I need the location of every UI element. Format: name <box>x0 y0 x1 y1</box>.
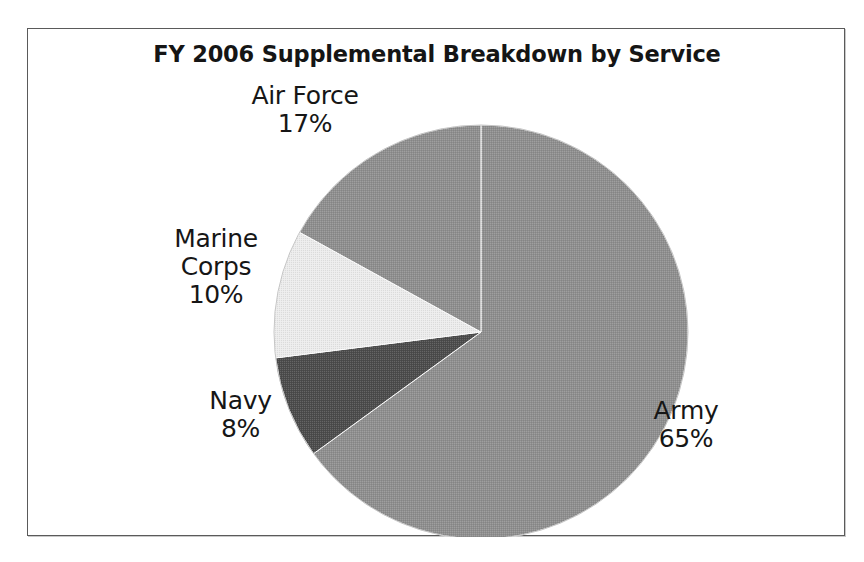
pie-label-marine-corps-name-line2: Corps <box>136 253 296 281</box>
pie-label-navy: Navy 8% <box>173 387 308 443</box>
pie-label-air-force-name: Air Force <box>210 82 400 110</box>
pie-label-air-force-value: 17% <box>210 110 400 138</box>
pie-label-marine-corps-name-line1: Marine <box>136 225 296 253</box>
pie-label-army-name: Army <box>606 397 766 425</box>
pie-label-marine-corps: Marine Corps 10% <box>136 225 296 309</box>
pie-chart-plot-area: Air Force 17% Marine Corps 10% Navy 8% A… <box>28 29 846 537</box>
pie-label-navy-value: 8% <box>173 415 308 443</box>
chart-frame: FY 2006 Supplemental Breakdown by Servic… <box>27 28 845 536</box>
pie-label-army: Army 65% <box>606 397 766 453</box>
pie-label-marine-corps-value: 10% <box>136 281 296 309</box>
pie-label-air-force: Air Force 17% <box>210 82 400 138</box>
pie-label-army-value: 65% <box>606 425 766 453</box>
pie-label-navy-name: Navy <box>173 387 308 415</box>
pie-texture-overlay <box>274 125 688 537</box>
